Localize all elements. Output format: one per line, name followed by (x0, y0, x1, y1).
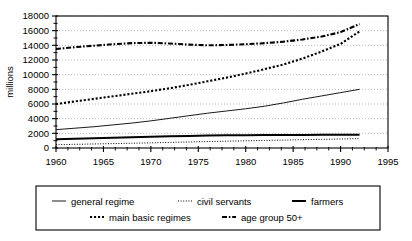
chart-canvas: 0200040006000800010000120001400016000180… (0, 0, 412, 241)
x-tick-label: 1990 (330, 156, 351, 167)
y-axis-title: millions (4, 66, 15, 98)
x-tick-label: 1975 (188, 156, 209, 167)
x-tick-label: 1995 (377, 156, 398, 167)
series-line (56, 89, 360, 129)
x-tick-label: 1980 (235, 156, 256, 167)
y-tick-label: 4000 (28, 113, 49, 124)
series-line (56, 135, 360, 139)
legend-label: civil servants (197, 196, 252, 207)
legend-box (36, 186, 380, 230)
legend: general regimecivil servantsfarmersmain … (36, 186, 380, 230)
series-line (56, 139, 360, 145)
plot-frame (56, 16, 388, 148)
y-tick-label: 12000 (23, 54, 49, 65)
legend-label: main basic regimes (109, 212, 191, 223)
y-tick-label: 16000 (23, 25, 49, 36)
legend-label: general regime (71, 196, 134, 207)
data-series-group (56, 24, 360, 145)
x-axis: 19601965197019751980198519901995 (45, 146, 398, 167)
y-tick-label: 2000 (28, 128, 49, 139)
x-tick-label: 1970 (140, 156, 161, 167)
line-chart: 0200040006000800010000120001400016000180… (0, 0, 412, 241)
legend-label: farmers (311, 196, 343, 207)
frame-rect (56, 16, 388, 148)
x-tick-label: 1965 (93, 156, 114, 167)
y-tick-label: 8000 (28, 84, 49, 95)
legend-label: age group 50+ (241, 212, 303, 223)
x-tick-label: 1985 (283, 156, 304, 167)
y-axis: 0200040006000800010000120001400016000180… (23, 10, 58, 153)
y-tick-label: 10000 (23, 69, 49, 80)
y-tick-label: 14000 (23, 40, 49, 51)
y-tick-label: 0 (44, 142, 49, 153)
y-tick-label: 18000 (23, 10, 49, 21)
y-tick-label: 6000 (28, 98, 49, 109)
series-line (56, 31, 360, 104)
x-tick-label: 1960 (45, 156, 66, 167)
